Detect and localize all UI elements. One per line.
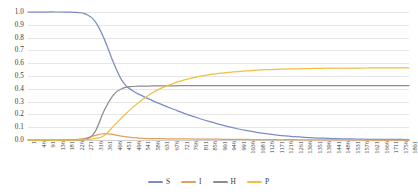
x-axis-tick-label: 271 <box>88 141 94 151</box>
legend-swatch-icon <box>148 181 163 183</box>
series-lines <box>28 12 409 140</box>
legend-label: I <box>199 178 201 186</box>
x-axis-tick-labels: 1469113618122627131636140645149654158663… <box>28 141 409 177</box>
x-axis-tick-label: 946 <box>231 141 237 151</box>
x-axis-tick-label: 1081 <box>260 141 266 154</box>
x-axis-tick-label: 1531 <box>355 141 361 154</box>
x-axis-tick-label: 811 <box>203 141 209 150</box>
x-axis-tick-label: 1126 <box>269 141 275 154</box>
legend-item-s[interactable]: S <box>148 178 170 186</box>
x-axis-tick-label: 1261 <box>298 141 304 154</box>
y-axis-tick-label: 1.0 <box>15 9 24 16</box>
x-axis-tick-label: 181 <box>69 141 75 151</box>
x-axis-tick-label: 1171 <box>279 141 285 154</box>
legend-item-p[interactable]: P <box>247 178 269 186</box>
x-axis-tick-label: 1351 <box>317 141 323 154</box>
legend-label: H <box>231 178 236 186</box>
y-axis-tick-label: 0.3 <box>15 98 24 105</box>
y-axis-tick-label: 0.8 <box>15 34 24 41</box>
x-axis-tick-label: 361 <box>107 141 113 151</box>
x-axis-tick-label: 496 <box>136 141 142 151</box>
x-axis-tick-label: 316 <box>98 141 104 151</box>
series-line-p <box>28 68 409 140</box>
x-axis-tick-label: 991 <box>241 141 247 151</box>
x-axis-tick-label: 1576 <box>364 141 370 154</box>
x-axis-tick-label: 451 <box>126 141 132 151</box>
x-axis-tick-label: 721 <box>184 141 190 151</box>
x-axis-tick-label: 541 <box>145 141 151 151</box>
legend-swatch-icon <box>213 181 228 183</box>
y-axis-tick-label: 0.4 <box>15 85 24 92</box>
x-axis-tick-label: 586 <box>155 141 161 151</box>
legend-label: S <box>166 178 170 186</box>
x-axis-tick-label: 1666 <box>384 141 390 154</box>
x-axis-tick-label: 856 <box>212 141 218 151</box>
x-axis-tick-label: 1036 <box>250 141 256 154</box>
x-axis-tick-label: 1441 <box>336 141 342 154</box>
x-axis-tick-label: 901 <box>222 141 228 151</box>
x-axis-tick-label: 1711 <box>393 141 399 154</box>
x-axis-tick-label: 1216 <box>288 141 294 154</box>
legend-item-i[interactable]: I <box>181 178 201 186</box>
x-axis-tick-label: 1801 <box>412 141 418 154</box>
y-axis-tick-label: 0.0 <box>15 137 24 144</box>
legend-swatch-icon <box>247 181 262 183</box>
y-axis-tick-label: 0.6 <box>15 60 24 67</box>
x-axis-tick-label: 766 <box>193 141 199 151</box>
series-line-h <box>28 86 409 140</box>
x-axis-tick-label: 1 <box>31 141 37 144</box>
y-axis-tick-label: 0.5 <box>15 73 24 80</box>
chart-legend: SIHP <box>0 178 417 186</box>
x-axis-tick-label: 631 <box>164 141 170 151</box>
legend-swatch-icon <box>181 181 196 183</box>
x-axis-tick-label: 676 <box>174 141 180 151</box>
x-axis-tick-label: 406 <box>117 141 123 151</box>
y-axis-tick-labels: 1.00.90.80.70.60.50.40.30.20.10.0 <box>0 12 26 140</box>
x-axis-tick-label: 136 <box>60 141 66 151</box>
x-axis-tick-label: 46 <box>41 141 47 147</box>
legend-item-h[interactable]: H <box>213 178 236 186</box>
x-axis-tick-label: 1306 <box>307 141 313 154</box>
y-axis-tick-label: 0.9 <box>15 21 24 28</box>
x-axis-tick-label: 226 <box>79 141 85 151</box>
legend-label: P <box>265 178 269 186</box>
x-axis-tick-label: 1756 <box>403 141 409 154</box>
x-axis-tick-label: 1621 <box>374 141 380 154</box>
x-axis-tick-label: 91 <box>50 141 56 147</box>
y-axis-tick-label: 0.1 <box>15 124 24 131</box>
x-axis-tick-label: 1486 <box>345 141 351 154</box>
plot-area <box>28 12 409 140</box>
y-axis-tick-label: 0.7 <box>15 47 24 54</box>
x-axis-tick-label: 1396 <box>326 141 332 154</box>
series-line-s <box>28 12 409 140</box>
y-axis-tick-label: 0.2 <box>15 111 24 118</box>
